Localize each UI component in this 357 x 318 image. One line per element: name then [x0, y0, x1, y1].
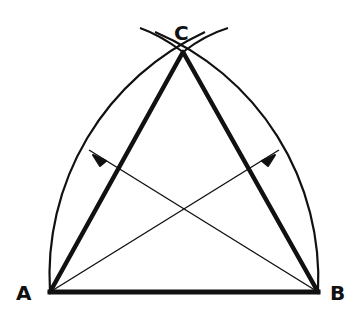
equilateral-triangle-construction: C A B	[0, 0, 357, 318]
point-label-c: C	[174, 21, 189, 45]
point-label-b: B	[330, 281, 345, 305]
point-label-a: A	[16, 281, 32, 305]
line-b-to-left-arc	[89, 150, 318, 292]
side-bc	[183, 52, 318, 292]
line-a-to-right-arc	[50, 150, 279, 292]
